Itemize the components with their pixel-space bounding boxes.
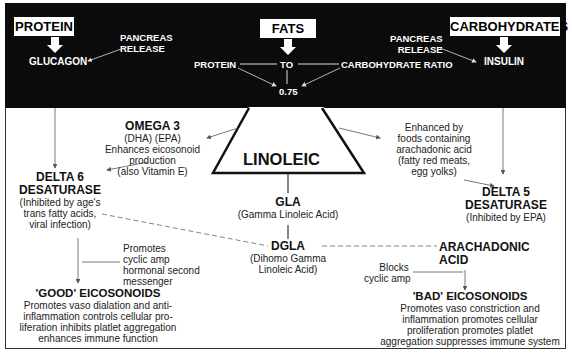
dgla-desc: (Dihomo Gamma [248, 253, 328, 264]
delta5-title: DESATURASE [462, 199, 550, 212]
arachadonic-title: ACID [439, 254, 530, 267]
dgla-desc: Linoleic Acid) [248, 264, 328, 275]
promotes-line: Promotes [123, 243, 200, 254]
promotes-line: cyclic amp [123, 254, 200, 265]
blocks-note: Blocks cyclic amp [364, 262, 411, 284]
promotes-line: hormonal second [123, 265, 200, 276]
delta5-block: DELTA 5 DESATURASE (Inhibited by EPA) [462, 186, 550, 223]
bad-line: Promotes vaso constriction and [378, 303, 562, 314]
enhanced-line: (fatty red meats, [389, 155, 479, 166]
enhanced-line: arachadonic acid [389, 144, 479, 155]
enhanced-block: Enhanced by foods containing arachadonic… [389, 122, 479, 177]
bad-line: aggregation suppresses immune system [378, 336, 562, 347]
bad-title: 'BAD' EICOSONOIDS [378, 290, 562, 303]
delta6-line: trans fatty acids, [12, 208, 108, 219]
delta6-title: DESATURASE [12, 184, 108, 197]
good-line: inflammation controls cellular pro- [12, 311, 184, 322]
bad-line: inflammation promotes cellular [378, 314, 562, 325]
delta6-block: DELTA 6 DESATURASE (Inhibited by age's t… [12, 171, 108, 230]
bad-eicosonoids-block: 'BAD' EICOSONOIDS Promotes vaso constric… [378, 290, 562, 347]
delta6-line: (Inhibited by age's [12, 197, 108, 208]
good-title: 'GOOD' EICOSONOIDS [12, 287, 184, 300]
good-eicosonoids-block: 'GOOD' EICOSONOIDS Promotes vaso dialati… [12, 287, 184, 344]
omega3-line: (also Vitamin E) [95, 166, 210, 177]
blocks-line: Blocks [364, 262, 411, 273]
delta6-line: viral infection) [12, 219, 108, 230]
gla-desc: (Gamma Linoleic Acid) [228, 209, 348, 220]
gla-block: GLA (Gamma Linoleic Acid) [228, 196, 348, 220]
good-line: Promotes vaso dialation and anti- [12, 300, 184, 311]
bad-line: proliferation promotes platlet [378, 325, 562, 336]
dgla-block: DGLA (Dihomo Gamma Linoleic Acid) [248, 240, 328, 275]
omega3-title: OMEGA 3 [95, 120, 210, 133]
omega3-line: Enhances eicosonoid [95, 144, 210, 155]
arachadonic-block: ARACHADONIC ACID [439, 241, 530, 267]
linoleic-label: LINOLEIC [243, 150, 320, 169]
enhanced-line: Enhanced by [389, 122, 479, 133]
delta5-line: (Inhibited by EPA) [462, 212, 550, 223]
good-line: liferation inhibits platlet aggregation [12, 322, 184, 333]
enhanced-line: egg yolks) [389, 166, 479, 177]
dgla-title: DGLA [248, 240, 328, 253]
omega3-block: OMEGA 3 (DHA) (EPA) Enhances eicosonoid … [95, 120, 210, 177]
blocks-line: cyclic amp [364, 273, 411, 284]
gla-title: GLA [228, 196, 348, 209]
promotes-note: Promotes cyclic amp hormonal second mess… [123, 243, 200, 287]
omega3-line: production [95, 155, 210, 166]
enhanced-line: foods containing [389, 133, 479, 144]
good-line: enhances immune function [12, 333, 184, 344]
omega3-line: (DHA) (EPA) [95, 133, 210, 144]
promotes-line: messenger [123, 276, 200, 287]
